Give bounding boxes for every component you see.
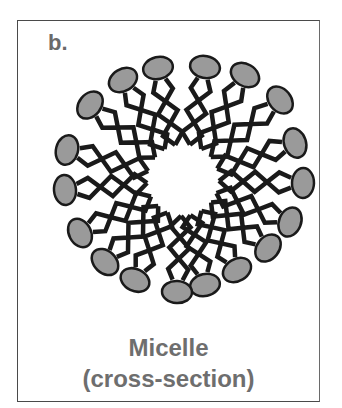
head-15 bbox=[53, 133, 82, 168]
head-1 bbox=[188, 53, 222, 80]
head-9 bbox=[188, 271, 222, 299]
head-7 bbox=[250, 229, 286, 266]
tail bbox=[103, 109, 156, 158]
panel-label: b. bbox=[48, 30, 68, 56]
head-8 bbox=[218, 253, 255, 287]
head-12 bbox=[87, 244, 124, 281]
head-14 bbox=[53, 174, 77, 206]
tail bbox=[219, 171, 291, 182]
head-16 bbox=[72, 86, 108, 123]
tail bbox=[96, 116, 155, 157]
head-0 bbox=[141, 54, 175, 82]
head-4 bbox=[280, 125, 310, 160]
tail bbox=[77, 183, 147, 198]
caption-title: Micelle bbox=[17, 333, 320, 363]
head-5 bbox=[292, 168, 315, 199]
caption-subtitle: (cross-section) bbox=[17, 364, 320, 394]
tail bbox=[182, 78, 198, 145]
tail bbox=[211, 203, 255, 245]
tail bbox=[110, 206, 159, 250]
head-10 bbox=[161, 280, 192, 304]
head-3 bbox=[262, 81, 298, 118]
tail bbox=[211, 104, 268, 157]
